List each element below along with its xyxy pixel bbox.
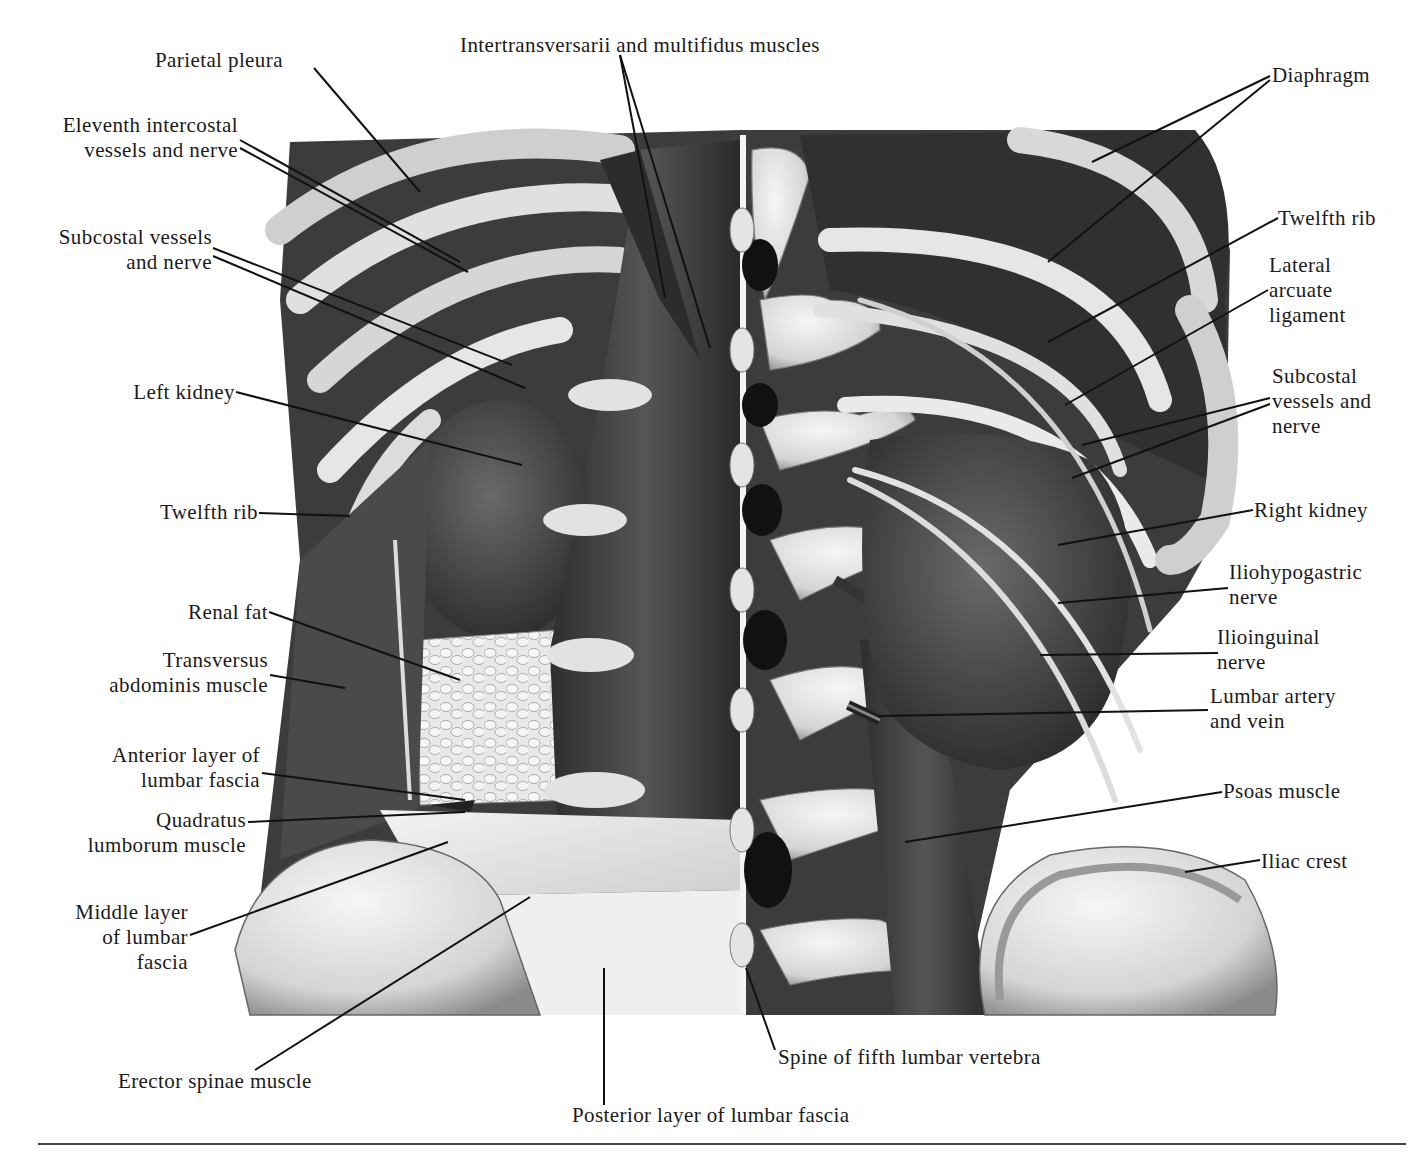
- label-lateral-arcuate-ligament: Lateral arcuate ligament: [1269, 253, 1346, 328]
- anatomy-figure: Parietal pleuraIntertransversarii and mu…: [0, 0, 1424, 1157]
- label-subcostal-left: Subcostal vessels and nerve: [59, 225, 212, 275]
- label-twelfth-rib-left: Twelfth rib: [160, 500, 258, 525]
- label-erector-spinae: Erector spinae muscle: [118, 1069, 312, 1094]
- right-iliac-bone: [980, 847, 1277, 1015]
- label-anterior-lumbar-fascia: Anterior layer of lumbar fascia: [112, 743, 260, 793]
- label-transversus-abdominis: Transversus abdominis muscle: [109, 648, 268, 698]
- label-parietal-pleura: Parietal pleura: [155, 48, 283, 73]
- label-middle-lumbar-fascia: Middle layer of lumbar fascia: [75, 900, 188, 975]
- label-iliac-crest: Iliac crest: [1261, 849, 1348, 874]
- label-diaphragm: Diaphragm: [1272, 63, 1370, 88]
- label-ilioinguinal-nerve: Ilioinguinal nerve: [1217, 625, 1320, 675]
- label-quadratus-lumborum: Quadratus lumborum muscle: [88, 808, 246, 858]
- label-twelfth-rib-right: Twelfth rib: [1278, 206, 1376, 231]
- label-eleventh-intercostal: Eleventh intercostal vessels and nerve: [63, 113, 238, 163]
- label-subcostal-right: Subcostal vessels and nerve: [1272, 364, 1371, 439]
- label-lumbar-artery-vein: Lumbar artery and vein: [1210, 684, 1336, 734]
- label-iliohypogastric-nerve: Iliohypogastric nerve: [1229, 560, 1362, 610]
- bottom-rule-divider: [38, 1143, 1406, 1145]
- label-spine-fifth-lumbar: Spine of fifth lumbar vertebra: [778, 1045, 1041, 1070]
- label-left-kidney: Left kidney: [133, 380, 235, 405]
- posterior-abdominal-wall-illustration: [0, 0, 1424, 1157]
- label-posterior-lumbar-fascia: Posterior layer of lumbar fascia: [572, 1103, 850, 1128]
- label-renal-fat: Renal fat: [188, 600, 268, 625]
- label-intertransversarii: Intertransversarii and multifidus muscle…: [460, 33, 820, 58]
- label-right-kidney: Right kidney: [1254, 498, 1368, 523]
- label-psoas-muscle: Psoas muscle: [1223, 779, 1340, 804]
